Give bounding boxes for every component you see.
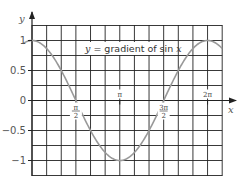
y-tick-labels: 10.50−0.5−1 xyxy=(2,35,32,166)
y-tick-label: −0.5 xyxy=(2,125,26,136)
x-tick-label-numerator: π xyxy=(74,104,79,112)
curve-label: y = gradient of sin x xyxy=(84,43,182,54)
y-tick-label: 0 xyxy=(20,95,26,106)
y-tick-label: 0.5 xyxy=(10,65,26,76)
x-axis-label: x xyxy=(228,104,234,115)
x-tick-label: π xyxy=(117,91,122,99)
y-tick-label: −1 xyxy=(11,155,26,166)
x-axis-arrow-icon xyxy=(229,98,237,104)
x-tick-label-numerator: 3π xyxy=(159,104,168,112)
cosine-chart: y = gradient of sin x 10.50−0.5−1 π2π3π2… xyxy=(0,0,245,189)
y-axis-label: y xyxy=(18,13,25,24)
x-tick-label-denominator: 2 xyxy=(161,112,165,120)
x-tick-label-denominator: 2 xyxy=(74,112,78,120)
y-tick-label: 1 xyxy=(20,35,26,46)
y-axis-arrow-icon xyxy=(29,11,35,19)
x-tick-label: 2π xyxy=(203,91,212,99)
